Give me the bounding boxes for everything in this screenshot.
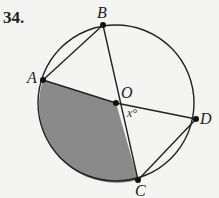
angle-label-x: x° bbox=[127, 106, 137, 121]
point-o bbox=[113, 100, 119, 106]
label-d: D bbox=[200, 110, 212, 128]
point-a bbox=[40, 77, 46, 83]
chord-dc bbox=[138, 119, 196, 180]
chord-ab bbox=[43, 25, 103, 80]
label-o: O bbox=[121, 84, 133, 102]
point-d bbox=[193, 116, 199, 122]
label-b: B bbox=[97, 4, 107, 22]
point-b bbox=[100, 22, 106, 28]
label-a: A bbox=[27, 69, 37, 87]
circle-diagram bbox=[0, 0, 219, 198]
label-c: C bbox=[135, 182, 146, 198]
